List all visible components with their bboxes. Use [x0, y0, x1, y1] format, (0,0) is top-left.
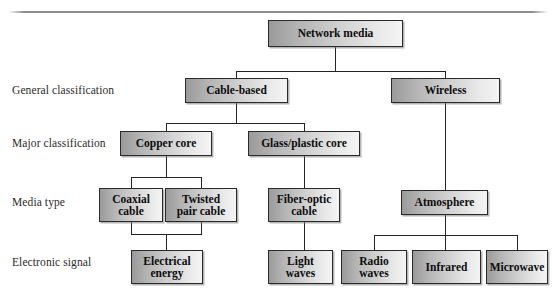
tier-label-general-classification: General classification [12, 84, 114, 96]
connector-root-stem [335, 47, 336, 71]
connector-cable-based-to-copper-core [166, 123, 167, 131]
node-light-waves-label: Light waves [271, 255, 330, 280]
top-divider-rule [8, 11, 548, 13]
node-coaxial-cable-line1: Coaxial [102, 193, 160, 206]
node-twisted-pair-cable[interactable]: Twisted pair cable [165, 188, 237, 222]
connector-coaxial-down [131, 222, 132, 234]
connector-twisted-pair-down [201, 222, 202, 234]
node-electrical-energy-line2: energy [134, 267, 200, 280]
node-twisted-pair-line1: Twisted [168, 193, 234, 206]
tier-label-major-classification: Major classification [12, 137, 106, 149]
node-light-waves-line1: Light [271, 255, 330, 268]
node-fiber-optic-line1: Fiber-optic [271, 193, 337, 206]
node-infrared[interactable]: Infrared [412, 250, 481, 284]
connector-atmosphere-to-radio-waves [374, 235, 375, 250]
node-electrical-energy-line1: Electrical [134, 255, 200, 268]
node-radio-waves-line2: waves [344, 267, 404, 280]
node-copper-core[interactable]: Copper core [120, 131, 212, 156]
node-network-media[interactable]: Network media [268, 20, 403, 47]
connector-cable-based-stem [236, 103, 237, 123]
node-fiber-optic-cable-label: Fiber-optic cable [271, 193, 337, 218]
connector-atmosphere-to-infrared [445, 235, 446, 250]
node-electrical-energy[interactable]: Electrical energy [131, 250, 203, 284]
connector-root-to-cable-based [236, 71, 237, 78]
connector-cable-based-bus [166, 123, 305, 124]
node-radio-waves-label: Radio waves [344, 255, 404, 280]
node-cable-based-label: Cable-based [188, 84, 285, 97]
node-coaxial-cable-line2: cable [102, 205, 160, 218]
node-wireless-label: Wireless [394, 84, 497, 97]
tier-label-electronic-signal: Electronic signal [12, 256, 91, 268]
node-copper-core-label: Copper core [123, 137, 209, 150]
connector-atmosphere-to-microwave [517, 235, 518, 250]
tier-label-media-type: Media type [12, 196, 65, 208]
connector-copper-core-bus [131, 177, 202, 178]
connector-copper-core-stem [166, 156, 167, 177]
node-infrared-label: Infrared [415, 261, 478, 274]
node-electrical-energy-label: Electrical energy [134, 255, 200, 280]
node-network-media-label: Network media [271, 27, 400, 40]
node-fiber-optic-cable[interactable]: Fiber-optic cable [268, 188, 340, 222]
node-glass-plastic-core-label: Glass/plastic core [251, 137, 357, 150]
node-atmosphere[interactable]: Atmosphere [401, 190, 488, 215]
node-twisted-pair-cable-label: Twisted pair cable [168, 193, 234, 218]
node-radio-waves[interactable]: Radio waves [341, 250, 407, 284]
connector-copper-core-to-coaxial [131, 177, 132, 188]
node-microwave-label: Microwave [489, 261, 545, 274]
node-coaxial-cable[interactable]: Coaxial cable [99, 188, 163, 222]
connector-atmosphere-stem [445, 215, 446, 235]
diagram-canvas: General classification Major classificat… [0, 0, 553, 300]
connector-root-bus [236, 71, 446, 72]
connector-wireless-to-atmosphere [445, 103, 446, 190]
node-light-waves-line2: waves [271, 267, 330, 280]
node-atmosphere-label: Atmosphere [404, 196, 485, 209]
node-microwave[interactable]: Microwave [486, 250, 548, 284]
connector-copper-core-to-twisted-pair [201, 177, 202, 188]
connector-cable-based-to-glass-plastic-core [304, 123, 305, 131]
connector-root-to-wireless [445, 71, 446, 78]
node-wireless[interactable]: Wireless [391, 78, 500, 103]
node-light-waves[interactable]: Light waves [268, 250, 333, 284]
node-twisted-pair-line2: pair cable [168, 205, 234, 218]
node-glass-plastic-core[interactable]: Glass/plastic core [248, 131, 360, 156]
node-cable-based[interactable]: Cable-based [185, 78, 288, 103]
connector-glass-core-to-fiber-optic [304, 156, 305, 188]
node-fiber-optic-line2: cable [271, 205, 337, 218]
node-radio-waves-line1: Radio [344, 255, 404, 268]
connector-bus-to-electrical-energy [166, 234, 167, 250]
connector-fiber-optic-to-light-waves [304, 222, 305, 250]
node-coaxial-cable-label: Coaxial cable [102, 193, 160, 218]
